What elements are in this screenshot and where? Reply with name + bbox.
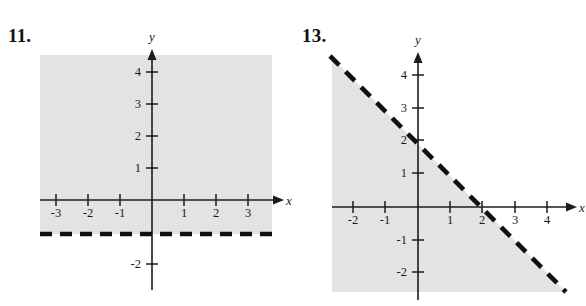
y-tick-label-neg2-13: -2 — [397, 265, 407, 279]
y-tick-label-4-11: 4 — [135, 65, 142, 79]
x-tick-label-1-13: 1 — [447, 213, 453, 227]
x-tick-label-neg1-11: -1 — [115, 206, 125, 220]
y-tick-label-1-13: 1 — [401, 166, 407, 180]
x-tick-label-1-11: 1 — [181, 206, 187, 220]
y-axis-arrow-13 — [414, 52, 423, 63]
x-axis-label-11: x — [285, 193, 292, 208]
y-tick-label-neg2-11: -2 — [131, 257, 141, 271]
y-tick-label-2-13: 2 — [401, 133, 407, 147]
plot-area-11: -3 -2 -1 1 2 3 4 3 2 1 -2 x y — [0, 0, 293, 306]
x-tick-label-3-11: 3 — [245, 206, 251, 220]
y-tick-label-neg1-13: -1 — [397, 233, 407, 247]
shaded-region-11 — [40, 55, 272, 234]
y-tick-label-3-13: 3 — [401, 101, 407, 115]
x-axis-arrow-13 — [566, 203, 577, 212]
x-tick-label-4-13: 4 — [544, 213, 551, 227]
x-tick-label-neg2-11: -2 — [83, 206, 93, 220]
figure-problem-13: 13. -2 -1 1 2 — [293, 0, 586, 306]
y-axis-label-11: y — [147, 29, 155, 44]
x-tick-label-2-13: 2 — [479, 213, 485, 227]
plot-area-13: -2 -1 1 2 3 4 4 3 2 1 -1 -2 x y — [293, 0, 586, 306]
x-tick-label-neg3-11: -3 — [51, 206, 61, 220]
figure-problem-11: 11. -3 -2 -1 1 2 3 4 3 2 — [0, 0, 293, 306]
y-axis-label-13: y — [413, 32, 421, 47]
y-axis-arrow-11 — [148, 49, 157, 60]
x-tick-label-2-11: 2 — [213, 206, 219, 220]
y-tick-label-4-13: 4 — [401, 68, 408, 82]
x-tick-label-neg1-13: -1 — [380, 213, 390, 227]
y-tick-label-3-11: 3 — [135, 97, 141, 111]
x-tick-label-3-13: 3 — [512, 213, 518, 227]
x-tick-label-neg2-13: -2 — [348, 213, 358, 227]
x-axis-arrow-11 — [273, 196, 284, 205]
y-tick-label-1-11: 1 — [135, 161, 141, 175]
y-tick-label-2-11: 2 — [135, 129, 141, 143]
x-axis-label-13: x — [578, 200, 585, 215]
